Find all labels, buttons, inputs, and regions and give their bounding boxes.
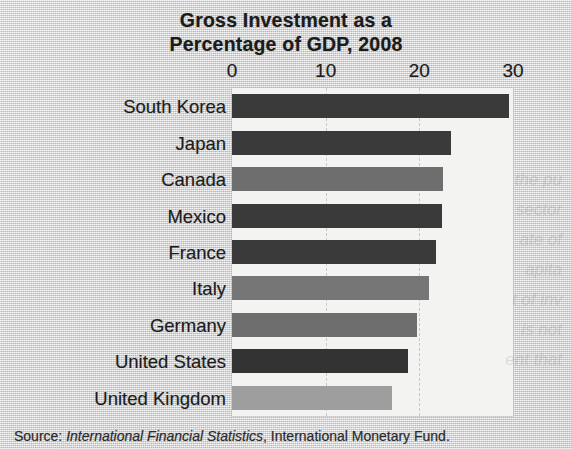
chart-plot-area xyxy=(232,88,513,416)
category-label-japan: Japan xyxy=(0,133,226,155)
category-label-germany: Germany xyxy=(0,315,226,337)
bar-united-states xyxy=(232,349,408,373)
chart-title-line-1: Gross Investment as a xyxy=(0,8,572,32)
bar-row xyxy=(232,386,513,410)
x-axis-tick-labels: 0102030 xyxy=(0,60,572,86)
x-axis-tick-0: 0 xyxy=(227,60,238,82)
bar-south-korea xyxy=(232,94,509,118)
bar-row xyxy=(232,94,513,118)
category-label-united-kingdom: United Kingdom xyxy=(0,388,226,410)
category-label-united-states: United States xyxy=(0,351,226,373)
category-label-mexico: Mexico xyxy=(0,206,226,228)
bar-mexico xyxy=(232,204,442,228)
bar-germany xyxy=(232,313,417,337)
bar-row xyxy=(232,313,513,337)
source-suffix: , International Monetary Fund. xyxy=(263,428,450,444)
source-publication: International Financial Statistics xyxy=(66,428,263,444)
x-axis-tick-10: 10 xyxy=(315,60,336,82)
category-label-france: France xyxy=(0,242,226,264)
x-axis-tick-30: 30 xyxy=(502,60,523,82)
bar-united-kingdom xyxy=(232,386,392,410)
category-label-south-korea: South Korea xyxy=(0,96,226,118)
category-axis-labels: South KoreaJapanCanadaMexicoFranceItalyG… xyxy=(0,88,226,416)
source-prefix: Source: xyxy=(14,428,62,444)
bar-row xyxy=(232,349,513,373)
bar-row xyxy=(232,276,513,300)
bar-row xyxy=(232,131,513,155)
bar-canada xyxy=(232,167,443,191)
bar-france xyxy=(232,240,436,264)
source-note: Source: International Financial Statisti… xyxy=(14,428,450,444)
category-label-italy: Italy xyxy=(0,278,226,300)
x-axis-tick-20: 20 xyxy=(409,60,430,82)
bar-row xyxy=(232,240,513,264)
bar-italy xyxy=(232,276,429,300)
bar-japan xyxy=(232,131,451,155)
bar-row xyxy=(232,204,513,228)
chart-title-line-2: Percentage of GDP, 2008 xyxy=(0,32,572,56)
bar-row xyxy=(232,167,513,191)
category-label-canada: Canada xyxy=(0,169,226,191)
chart-title: Gross Investment as a Percentage of GDP,… xyxy=(0,8,572,56)
